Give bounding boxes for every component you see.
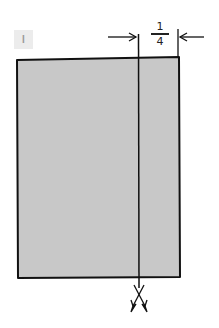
dimension-fraction: 1 4 xyxy=(148,21,172,47)
scissors-icon xyxy=(131,285,147,312)
fraction-numerator: 1 xyxy=(148,21,172,32)
cut-line xyxy=(139,34,140,288)
fraction-denominator: 4 xyxy=(148,36,172,47)
arrow-left-icon xyxy=(180,33,204,41)
fabric-panel xyxy=(17,57,180,278)
step-number-badge: I xyxy=(14,30,33,49)
diagram-drawing xyxy=(0,0,219,328)
arrow-right-icon xyxy=(108,33,136,41)
